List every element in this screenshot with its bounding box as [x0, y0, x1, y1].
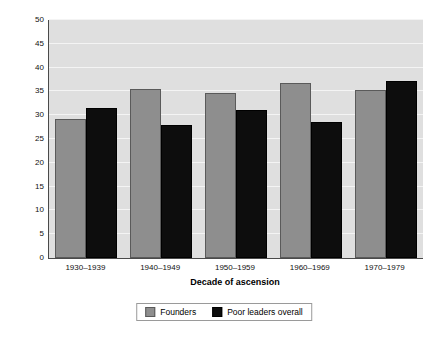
gray-swatch-icon [145, 307, 155, 317]
x-axis-tick: 1940–1949 [125, 263, 196, 272]
bar-poor-leaders[interactable] [86, 108, 117, 258]
bar-founders[interactable] [130, 89, 161, 258]
y-axis-tick: 15 [20, 183, 44, 191]
bars-layer [49, 20, 423, 258]
bar-founders[interactable] [355, 90, 386, 259]
x-axis-tick: 1950–1959 [199, 263, 270, 272]
legend-item-label: Founders [160, 307, 196, 317]
bar-group [275, 20, 346, 258]
y-axis-tick: 40 [20, 64, 44, 72]
y-axis-tick: 20 [20, 159, 44, 167]
x-axis-tick: 1970–1979 [349, 263, 420, 272]
bar-poor-leaders[interactable] [236, 110, 267, 259]
legend-item[interactable]: Founders [145, 307, 196, 317]
bar-group [51, 20, 122, 258]
y-axis-tick: 5 [20, 230, 44, 238]
x-axis-tick: 1930–1939 [50, 263, 121, 272]
chart-legend: FoundersPoor leaders overall [136, 303, 312, 321]
x-axis-tick-labels: 1930–19391940–19491950–19591960–19691970… [48, 263, 422, 272]
bar-founders[interactable] [280, 83, 311, 258]
legend-item[interactable]: Poor leaders overall [212, 307, 303, 317]
x-axis-title: Decade of ascension [48, 277, 422, 287]
y-axis-tick: 35 [20, 87, 44, 95]
y-axis-tick: 30 [20, 111, 44, 119]
bar-founders[interactable] [55, 119, 86, 258]
bar-poor-leaders[interactable] [311, 122, 342, 258]
bar-founders[interactable] [205, 93, 236, 258]
black-swatch-icon [212, 307, 222, 317]
bar-group [200, 20, 271, 258]
y-axis-tick: 45 [20, 40, 44, 48]
bar-group [126, 20, 197, 258]
bar-group [350, 20, 421, 258]
y-axis-tick-labels: 50454035302520151050 [20, 14, 44, 264]
plot-area [48, 20, 423, 259]
x-axis-tick: 1960–1969 [274, 263, 345, 272]
y-axis-tick: 10 [20, 206, 44, 214]
y-axis-tick: 50 [20, 16, 44, 24]
y-axis-tick: 25 [20, 135, 44, 143]
y-axis-tick: 0 [20, 254, 44, 262]
bar-chart: Percentage of all leaders 50454035302520… [0, 0, 448, 338]
legend-item-label: Poor leaders overall [227, 307, 303, 317]
bar-poor-leaders[interactable] [161, 125, 192, 258]
bar-poor-leaders[interactable] [386, 81, 417, 258]
